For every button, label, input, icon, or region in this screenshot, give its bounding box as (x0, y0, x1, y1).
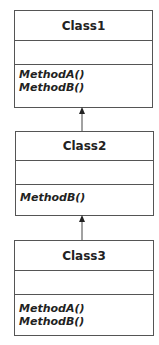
method-item: MethodA() (19, 68, 152, 81)
class-name: Class3 (15, 241, 153, 271)
attributes-section (16, 161, 153, 185)
class-name-label: Class1 (62, 19, 106, 33)
class-name-label: Class3 (62, 249, 106, 263)
class-name-label: Class2 (63, 139, 107, 153)
inheritance-arrow-icon (77, 215, 87, 241)
class-name: Class1 (15, 11, 152, 41)
inheritance-arrow-icon (77, 107, 87, 132)
methods-section: MethodA() MethodB() (15, 295, 153, 328)
method-item: MethodB() (19, 81, 152, 94)
methods-section: MethodB() (16, 185, 153, 204)
attributes-section (15, 271, 153, 295)
class-box-class3: Class3 MethodA() MethodB() (14, 240, 154, 336)
method-item: MethodA() (19, 302, 153, 315)
class-box-class1: Class1 MethodA() MethodB() (14, 10, 153, 108)
method-item: MethodB() (20, 191, 153, 204)
methods-section: MethodA() MethodB() (15, 65, 152, 94)
class-name: Class2 (16, 132, 153, 161)
method-item: MethodB() (19, 315, 153, 328)
class-box-class2: Class2 MethodB() (15, 131, 154, 216)
attributes-section (15, 41, 152, 65)
